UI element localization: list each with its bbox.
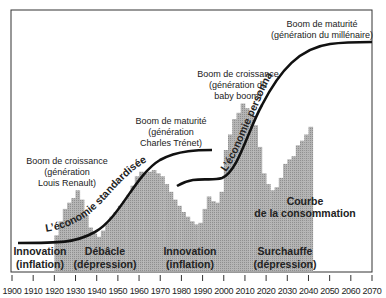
label-line: (génération xyxy=(126,127,216,138)
label-line: Boom de maturité xyxy=(262,19,382,30)
consumption-cycle-chart: L’économie standardisée L’économie perso… xyxy=(0,0,386,298)
label-line: Louis Renault) xyxy=(22,178,112,189)
boom-maturite-trenet-label: Boom de maturité (génération Charles Tré… xyxy=(126,116,216,149)
label-line: de la consommation xyxy=(250,207,360,219)
label-line: (inflation) xyxy=(10,258,70,271)
consumption-bar xyxy=(143,173,148,271)
consumption-bar xyxy=(139,172,144,272)
label-line: (génération xyxy=(22,167,112,178)
label-line: (dépression) xyxy=(250,258,320,271)
boom-croissance-renault-label: Boom de croissance (génération Louis Ren… xyxy=(22,156,112,189)
x-axis-ticks xyxy=(12,275,372,281)
phase-debacle: Débâcle (dépression) xyxy=(73,245,137,271)
label-line: (génération du millénaire) xyxy=(262,30,382,41)
label-line: (inflation) xyxy=(160,258,220,271)
consumption-bar xyxy=(152,170,157,271)
x-tick-label: 2070 xyxy=(360,286,384,296)
consumption-bar xyxy=(220,192,225,272)
label-line: Innovation xyxy=(10,245,70,258)
label-line: Surchauffe xyxy=(250,245,320,258)
label-line: Débâcle xyxy=(73,245,137,258)
phase-innovation-1: Innovation (inflation) xyxy=(10,245,70,271)
label-line: Boom de croissance xyxy=(22,156,112,167)
label-line: (génération du xyxy=(188,80,288,91)
boom-maturite-millenaire-label: Boom de maturité (génération du millénai… xyxy=(262,19,382,41)
phase-surchauffe: Surchauffe (dépression) xyxy=(250,245,320,271)
consumption-bar xyxy=(148,172,153,272)
label-line: Boom de maturité xyxy=(126,116,216,127)
label-line: Charles Trénet) xyxy=(126,138,216,149)
label-line: Courbe xyxy=(250,195,360,207)
phase-innovation-2: Innovation (inflation) xyxy=(160,245,220,271)
label-line: (dépression) xyxy=(73,258,137,271)
label-line: Innovation xyxy=(160,245,220,258)
label-line: Boom de croissance xyxy=(188,69,288,80)
boom-croissance-babyboom-label: Boom de croissance (génération du baby b… xyxy=(188,69,288,102)
consumption-curve-label: Courbe de la consommation xyxy=(250,195,360,219)
label-line: baby boom) xyxy=(188,91,288,102)
